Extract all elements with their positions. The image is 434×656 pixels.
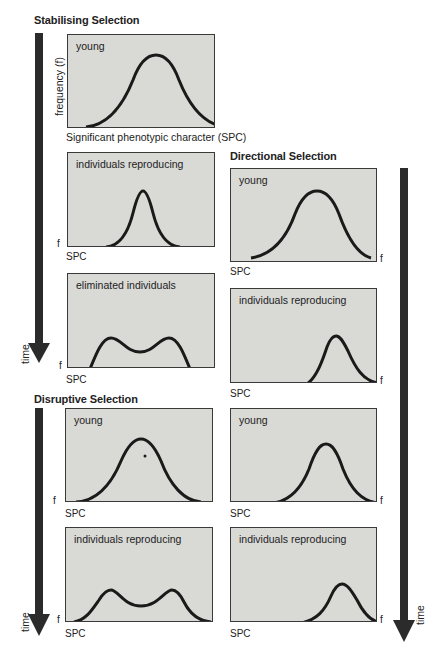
distribution-curve: [66, 528, 213, 622]
x-axis-label-spc: SPC: [230, 628, 251, 639]
distribution-curve: [231, 409, 377, 502]
x-axis-label-spc: SPC: [230, 266, 251, 277]
panel-directional-reproducing: individuals reproducing: [230, 288, 377, 383]
panel-disruptive-reproducing: individuals reproducing: [65, 527, 213, 622]
arrow-head-icon: [28, 614, 50, 636]
panel-stabilising-young: young: [67, 34, 215, 128]
y-axis-label-frequency: frequency (f): [53, 57, 65, 116]
panel-stabilising-reproducing: individuals reproducing: [67, 152, 215, 247]
distribution-curve: [231, 289, 377, 383]
arrow-shaft: [35, 33, 43, 345]
directional-selection-heading: Directional Selection: [230, 150, 337, 162]
stabilising-selection-heading: Stabilising Selection: [34, 14, 139, 26]
y-axis-label-f: f: [380, 495, 383, 506]
y-axis-label-f: f: [59, 360, 62, 371]
arrow-head-icon: [393, 620, 415, 642]
x-axis-label-spc-full: Significant phenotypic character (SPC): [66, 131, 246, 143]
panel-directional-young-2: young: [230, 408, 377, 502]
y-axis-label-f: f: [380, 253, 383, 264]
y-axis-label-f: f: [57, 238, 60, 249]
arrow-shaft: [400, 168, 408, 623]
y-axis-label-f: f: [380, 375, 383, 386]
x-axis-label-spc: SPC: [65, 508, 86, 519]
arrow-head-icon: [28, 343, 50, 363]
distribution-curve: [68, 153, 215, 247]
distribution-curve: [231, 169, 377, 262]
panel-stabilising-eliminated: eliminated individuals: [67, 273, 215, 368]
distribution-curve: [68, 274, 215, 368]
panel-directional-young: young: [230, 168, 377, 262]
panel-disruptive-young: young: [65, 408, 213, 502]
time-label-directional: time: [414, 605, 426, 625]
y-axis-label-f: f: [380, 614, 383, 625]
distribution-curve: [66, 409, 213, 502]
distribution-curve: [231, 528, 377, 622]
x-axis-label-spc: SPC: [230, 388, 251, 399]
x-axis-label-spc: SPC: [230, 508, 251, 519]
arrow-shaft: [35, 408, 43, 620]
panel-directional-reproducing-2: individuals reproducing: [230, 527, 377, 622]
y-axis-label-f: f: [53, 495, 56, 506]
time-label-disruptive: time: [19, 612, 31, 632]
disruptive-selection-heading: Disruptive Selection: [34, 393, 138, 405]
x-axis-label-spc: SPC: [65, 628, 86, 639]
x-axis-label-spc: SPC: [66, 374, 87, 385]
time-label-stabilising: time: [19, 344, 31, 364]
distribution-curve: [68, 35, 215, 128]
y-axis-label-f: f: [57, 614, 60, 625]
x-axis-label-spc: SPC: [66, 251, 87, 262]
